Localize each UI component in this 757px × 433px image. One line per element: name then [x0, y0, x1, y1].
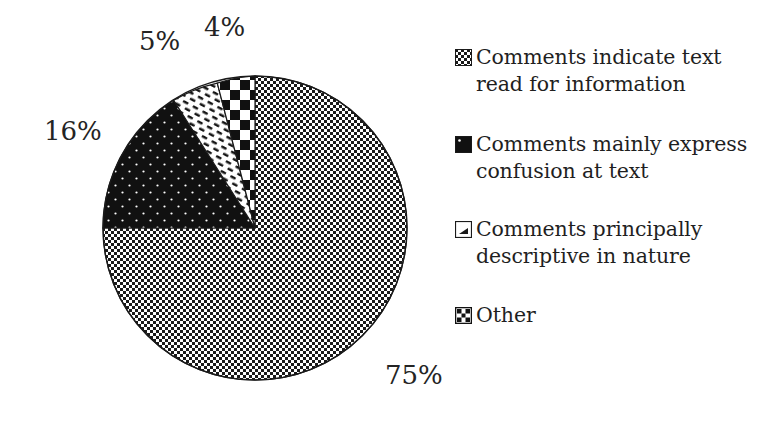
fine-checkerboard-swatch-icon: [455, 49, 472, 66]
legend-label: Comments mainly express confusion at tex…: [476, 131, 757, 186]
solid-black-dotted-swatch-icon: [455, 136, 472, 153]
pie-value-label-4: 4%: [204, 14, 245, 40]
chart-legend: Comments indicate text read for informat…: [455, 44, 757, 329]
legend-item-comments-principally-descriptive-in-nature: Comments principally descriptive in natu…: [455, 216, 757, 271]
pie-plot-area: 16% 5% 4% 75%: [0, 0, 450, 433]
legend-label: Comments indicate text read for informat…: [476, 44, 757, 99]
legend-label: Other: [476, 302, 536, 329]
pie-value-label-16: 16%: [44, 118, 102, 144]
pie-value-label-75: 75%: [385, 362, 443, 388]
legend-label: Comments principally descriptive in natu…: [476, 216, 757, 271]
bold-checkerboard-swatch-icon: [455, 307, 472, 324]
legend-item-other: Other: [455, 302, 757, 329]
pie-value-label-5: 5%: [139, 28, 180, 54]
pie-svg: [0, 0, 450, 433]
legend-item-comments-indicate-text-read-for-information: Comments indicate text read for informat…: [455, 44, 757, 99]
legend-item-comments-mainly-express-confusion-at-text: Comments mainly express confusion at tex…: [455, 131, 757, 186]
white-outline-swatch-icon: [455, 221, 472, 238]
pie-chart-figure: 16% 5% 4% 75% Comments indicate text rea…: [0, 0, 757, 433]
